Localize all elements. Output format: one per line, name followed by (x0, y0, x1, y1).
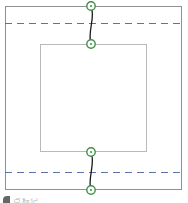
node-top-inner-center-dot (90, 43, 92, 45)
node-top-outer-center-dot (90, 5, 92, 7)
node-bottom-inner-center-dot (90, 151, 92, 153)
connector-top (90, 6, 93, 44)
node-top-outer[interactable] (87, 2, 95, 10)
connector-bottom (90, 152, 93, 190)
node-bottom-outer[interactable] (87, 186, 95, 194)
inner-boundary-rectangle (41, 45, 147, 152)
outer-boundary-rectangle (6, 7, 182, 190)
node-bottom-inner[interactable] (87, 148, 95, 156)
diagram-canvas: 点标记 (0, 0, 188, 203)
node-top-inner[interactable] (87, 40, 95, 48)
diagram-svg (0, 0, 188, 203)
node-bottom-outer-center-dot (90, 189, 92, 191)
